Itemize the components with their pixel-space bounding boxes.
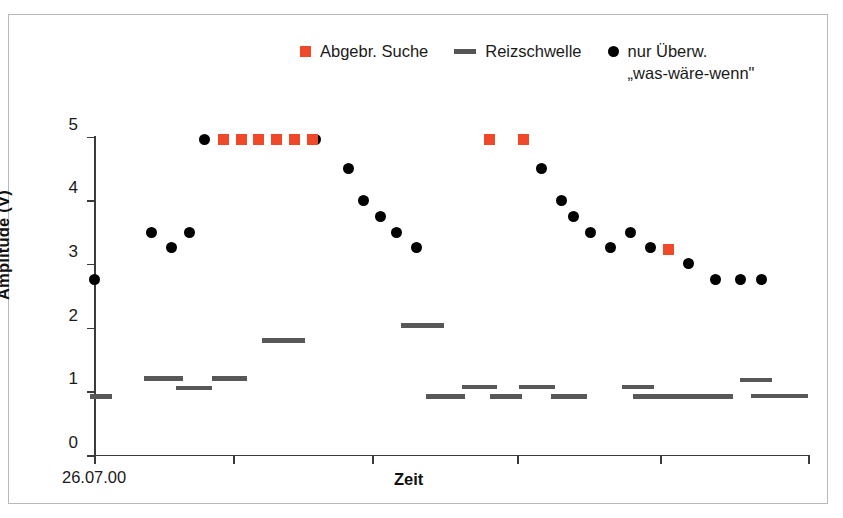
y-axis-tick — [87, 137, 94, 139]
threshold-segment — [212, 376, 248, 381]
x-axis-tick — [94, 455, 96, 464]
data-point-square — [236, 134, 247, 145]
threshold-segment — [401, 323, 444, 328]
data-point-dot — [166, 242, 177, 253]
threshold-segment — [462, 385, 498, 390]
data-point-dot — [735, 274, 746, 285]
y-axis-tick-label: 1 — [42, 369, 78, 389]
x-axis-tick — [372, 455, 374, 464]
x-axis-title: Zeit — [394, 470, 423, 489]
y-axis-tick-label: 0 — [42, 433, 78, 453]
y-axis-line — [94, 136, 96, 456]
threshold-segment — [708, 394, 733, 399]
data-point-dot — [605, 242, 616, 253]
data-point-square — [289, 134, 300, 145]
data-point-dot — [556, 195, 567, 206]
data-point-dot — [683, 258, 694, 269]
x-axis-tick — [517, 455, 519, 464]
y-axis-tick — [87, 391, 94, 393]
chart-figure: Abgebr. Suche Reizschwelle nur Überw.„wa… — [0, 0, 843, 518]
x-axis-start-label: 26.07.00 — [62, 468, 126, 487]
threshold-segment — [426, 394, 465, 399]
data-point-dot — [585, 227, 596, 238]
threshold-segment — [176, 386, 212, 391]
data-point-dot — [358, 195, 369, 206]
data-point-dot — [391, 227, 402, 238]
threshold-segment — [551, 394, 587, 399]
data-point-dot — [536, 163, 547, 174]
threshold-segment — [262, 338, 305, 343]
x-axis-line — [94, 455, 808, 457]
y-axis-tick-label: 4 — [42, 178, 78, 198]
data-point-dot — [625, 227, 636, 238]
threshold-segment — [144, 376, 183, 381]
y-axis-tick-label: 5 — [42, 115, 78, 135]
data-point-dot — [184, 227, 195, 238]
threshold-segment — [519, 385, 555, 390]
data-point-dot — [375, 211, 386, 222]
y-axis-tick — [87, 264, 94, 266]
plot-area: Amplitude (V) Zeit 26.07.00 012345 — [0, 0, 843, 518]
data-point-square — [271, 134, 282, 145]
data-point-dot — [645, 242, 656, 253]
data-point-dot — [411, 242, 422, 253]
data-point-square — [484, 134, 495, 145]
threshold-segment — [740, 378, 772, 383]
data-point-dot — [710, 274, 721, 285]
y-axis-tick — [87, 328, 94, 330]
x-axis-tick — [808, 455, 810, 464]
threshold-segment — [751, 394, 808, 399]
x-axis-tick — [233, 455, 235, 464]
data-point-dot — [146, 227, 157, 238]
data-point-square — [663, 244, 674, 255]
data-point-dot — [343, 163, 354, 174]
y-axis-tick — [87, 455, 94, 457]
data-point-dot — [89, 274, 100, 285]
data-point-dot — [568, 211, 579, 222]
y-axis-tick — [87, 200, 94, 202]
threshold-segment — [622, 385, 654, 390]
y-axis-title: Amplitude (V) — [0, 190, 13, 300]
data-point-square — [307, 134, 318, 145]
threshold-segment — [633, 394, 719, 399]
data-point-square — [218, 134, 229, 145]
y-axis-tick-label: 3 — [42, 242, 78, 262]
data-point-dot — [199, 134, 210, 145]
data-point-dot — [756, 274, 767, 285]
data-point-square — [253, 134, 264, 145]
data-point-square — [518, 134, 529, 145]
threshold-segment — [90, 394, 111, 399]
y-axis-tick-label: 2 — [42, 306, 78, 326]
threshold-segment — [490, 394, 522, 399]
x-axis-tick — [660, 455, 662, 464]
